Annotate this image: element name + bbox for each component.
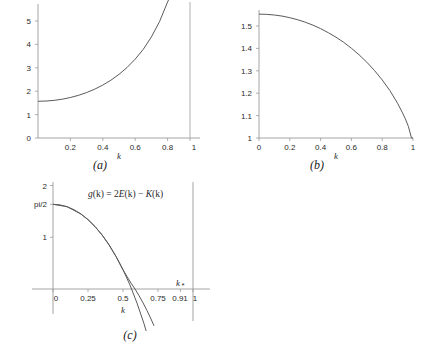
panel-b-xtick-1: 0.2 (284, 143, 296, 152)
panel-c-xtick-5: 1 (193, 294, 198, 303)
panel-b-ytick-0: 1 (248, 134, 253, 143)
panel-b-ytick-4: 1.4 (241, 44, 253, 53)
panel-c-y-ticks: 2 1 pi/2 (34, 182, 53, 243)
panel-b-xtick-3: 0.6 (346, 143, 358, 152)
panel-c-xtick-2: 0.5 (117, 294, 129, 303)
panel-a-x-ticks: 0.2 0.4 0.6 0.8 1 (65, 138, 197, 152)
panel-b-plot: 1 1.1 1.2 1.3 1.4 1.5 0 0.2 0.4 0.6 0.8 … (217, 0, 434, 160)
panel-c-plot: 2 1 pi/2 0 0.25 0.5 0.75 0.91 1 k (10, 176, 250, 331)
panel-a-ytick-0: 0 (27, 134, 32, 143)
panel-a-ytick-3: 3 (27, 64, 32, 73)
panel-b-ytick-5: 1.5 (241, 22, 253, 31)
panel-c-ytick-pi-half: pi/2 (34, 200, 47, 209)
panel-c-root-label: k * (176, 278, 185, 290)
panel-b-x-ticks: 0 0.2 0.4 0.6 0.8 1 (257, 138, 416, 152)
panel-b-xtick-5: 1 (411, 143, 416, 152)
panel-c-ytick-1: 1 (43, 233, 48, 242)
panel-c-xtick-4: 0.91 (172, 294, 188, 303)
panel-b-xtick-4: 0.8 (377, 143, 389, 152)
panel-c: 2 1 pi/2 0 0.25 0.5 0.75 0.91 1 k (10, 176, 250, 352)
annotation-part1: (k) = 2 (93, 189, 119, 200)
panel-b-caption: (b) (217, 158, 417, 173)
panel-c-x-ticks: 0 0.25 0.5 0.75 0.91 1 (53, 289, 198, 303)
panel-a-caption: (a) (0, 158, 200, 173)
panel-c-annotation: g(k) = 2E(k) − K(k) (88, 189, 163, 200)
panel-a-curve-K (38, 0, 190, 101)
panel-a-ytick-2: 2 (27, 87, 32, 96)
annotation-part3: (k) (152, 189, 163, 200)
elliptic-integral-figure: 0 1 2 3 4 5 0.2 0.4 0.6 0.8 1 k (0, 0, 434, 352)
panel-b-y-ticks: 1 1.1 1.2 1.3 1.4 1.5 (241, 22, 259, 143)
panel-c-root-label-k: k (176, 278, 181, 288)
panel-c-root-label-star: * (181, 281, 184, 290)
panel-a: 0 1 2 3 4 5 0.2 0.4 0.6 0.8 1 k (0, 0, 217, 176)
panel-c-caption: (c) (10, 328, 250, 343)
panel-c-xlabel: k (121, 305, 126, 315)
panel-a-ytick-1: 1 (27, 111, 32, 120)
panel-a-xtick-3: 0.8 (162, 143, 174, 152)
panel-b: 1 1.1 1.2 1.3 1.4 1.5 0 0.2 0.4 0.6 0.8 … (217, 0, 434, 176)
panel-b-ytick-3: 1.3 (241, 67, 253, 76)
panel-a-ytick-5: 5 (27, 17, 32, 26)
panel-b-ytick-2: 1.2 (241, 89, 253, 98)
panel-b-ytick-1: 1.1 (241, 112, 253, 121)
annotation-part2: (k) − (125, 189, 146, 200)
panel-a-xtick-0: 0.2 (65, 143, 77, 152)
panel-b-curve-E (259, 14, 413, 138)
panel-c-xtick-0: 0 (54, 294, 59, 303)
panel-a-ytick-4: 4 (27, 40, 32, 49)
panel-c-curve-g (53, 204, 179, 331)
panel-b-xtick-0: 0 (257, 143, 262, 152)
panel-a-y-ticks: 0 1 2 3 4 5 (27, 17, 38, 143)
panel-c-xtick-3: 0.75 (150, 294, 166, 303)
panel-a-xtick-1: 0.4 (97, 143, 109, 152)
panel-b-xtick-2: 0.4 (315, 143, 327, 152)
panel-c-ytick-2: 2 (43, 182, 48, 191)
panel-a-xtick-4: 1 (192, 143, 197, 152)
panel-a-plot: 0 1 2 3 4 5 0.2 0.4 0.6 0.8 1 k (0, 0, 217, 160)
panel-a-xtick-2: 0.6 (130, 143, 142, 152)
panel-c-xtick-1: 0.25 (80, 294, 96, 303)
